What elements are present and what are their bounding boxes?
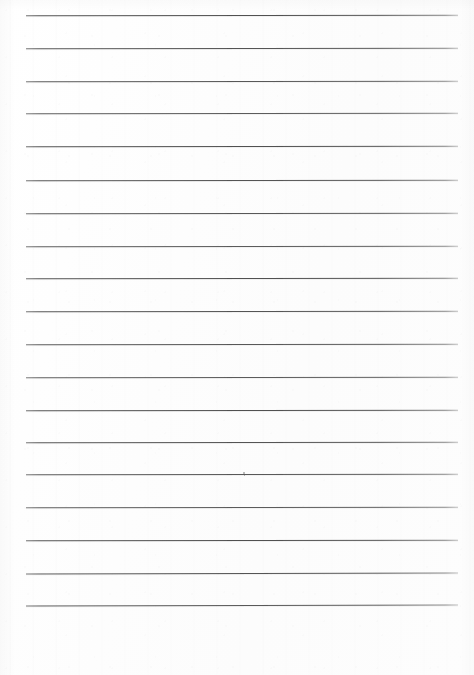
ruled-line bbox=[26, 180, 458, 181]
ruled-line bbox=[26, 146, 458, 147]
ruled-line bbox=[26, 113, 458, 114]
ruled-line bbox=[26, 474, 458, 476]
ruled-line bbox=[26, 573, 458, 575]
ruled-line bbox=[26, 311, 458, 313]
scanned-paper-page bbox=[0, 0, 474, 675]
ruled-line bbox=[26, 410, 458, 412]
ruled-line bbox=[26, 278, 458, 280]
ruled-line bbox=[26, 507, 458, 509]
ruled-line bbox=[26, 15, 458, 16]
dust-speck bbox=[244, 475, 245, 476]
ruled-line bbox=[26, 540, 458, 542]
ruled-line bbox=[26, 213, 458, 214]
ruled-line bbox=[26, 442, 458, 444]
ruled-line bbox=[26, 344, 458, 346]
ruled-line bbox=[26, 48, 458, 49]
ink-speck bbox=[243, 472, 245, 474]
ruled-line bbox=[26, 377, 458, 379]
ruled-line bbox=[26, 605, 458, 607]
ruled-line bbox=[26, 246, 458, 247]
ruled-line bbox=[26, 81, 458, 82]
